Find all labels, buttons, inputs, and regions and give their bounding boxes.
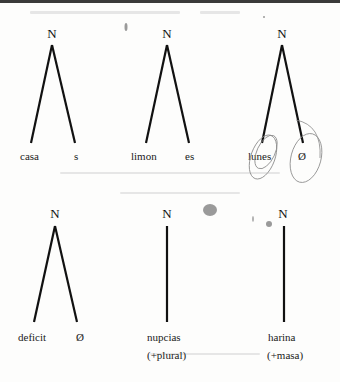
- branch-right: [167, 45, 189, 143]
- ink-smudge: [263, 16, 265, 18]
- leaf-label: casa: [20, 150, 39, 162]
- tree-harina: N harina (+masa): [267, 206, 303, 362]
- node-label: N: [47, 26, 57, 41]
- bleed-through-text: [200, 11, 240, 14]
- node-label: N: [277, 26, 287, 41]
- feature-note: (+plural): [147, 349, 187, 362]
- tree-nupcias: N nupcias (+plural): [147, 206, 187, 362]
- leaf-label: limon: [131, 150, 157, 162]
- leaf-label: es: [185, 150, 194, 162]
- branch-left: [31, 45, 52, 143]
- node-label: N: [162, 26, 172, 41]
- branch-right: [282, 45, 303, 143]
- ink-smudge: [252, 216, 254, 222]
- tree-limon-es: N limon es: [131, 26, 194, 162]
- branch-left: [146, 45, 167, 143]
- morphology-tree-diagrams: N casa s N limon es N lunes Ø N deficit …: [0, 0, 340, 382]
- branch-right: [52, 45, 75, 143]
- tree-casa-s: N casa s: [20, 26, 78, 162]
- feature-note: (+masa): [267, 349, 303, 362]
- leaf-label: lunes: [248, 150, 271, 162]
- tree-lunes-null: N lunes Ø: [244, 26, 327, 186]
- branch-left: [34, 226, 55, 322]
- leaf-label: s: [74, 150, 78, 162]
- leaf-label: nupcias: [147, 331, 181, 343]
- leaf-label: deficit: [18, 331, 46, 343]
- hand-drawn-circle: [285, 130, 327, 186]
- bleed-through-text: [30, 11, 180, 14]
- ink-smudge: [266, 221, 272, 227]
- leaf-label: Ø: [76, 331, 84, 343]
- tree-deficit-null: N deficit Ø: [18, 206, 84, 343]
- node-label: N: [50, 206, 60, 221]
- leaf-label: harina: [268, 331, 296, 343]
- branch-left: [262, 45, 282, 143]
- ink-smudge: [125, 23, 128, 31]
- node-label: N: [162, 206, 172, 221]
- bleed-through-text: [120, 192, 240, 194]
- bleed-through-text: [60, 172, 280, 174]
- leaf-label: Ø: [298, 150, 306, 162]
- node-label: N: [278, 206, 288, 221]
- branch-right: [55, 226, 77, 322]
- ink-smudge: [203, 204, 217, 216]
